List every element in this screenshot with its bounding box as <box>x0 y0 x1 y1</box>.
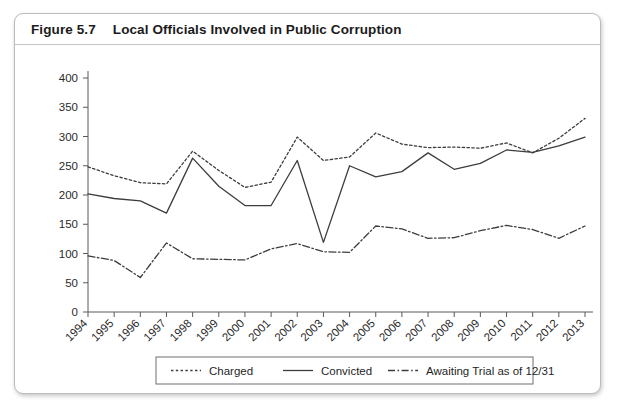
series-line-awaiting <box>88 225 585 277</box>
figure-title: Local Officials Involved in Public Corru… <box>113 22 402 37</box>
x-axis-tick-label: 2005 <box>351 317 378 344</box>
series-line-charged <box>88 118 585 187</box>
x-axis-tick-label: 2002 <box>272 317 299 344</box>
x-axis-tick-label: 1995 <box>89 317 116 344</box>
x-axis-tick-label: 1998 <box>167 317 194 344</box>
y-axis-tick-label: 250 <box>59 160 78 172</box>
y-axis-tick-label: 200 <box>59 189 78 201</box>
legend-label-3: Awaiting Trial as of 12/31 <box>426 365 554 377</box>
y-axis-tick-label: 50 <box>65 277 78 289</box>
x-axis-tick-label: 1997 <box>141 317 168 344</box>
y-axis-tick-label: 150 <box>59 218 78 230</box>
x-axis-tick-label: 2007 <box>403 317 430 344</box>
figure-card: Figure 5.7 Local Officials Involved in P… <box>14 13 601 394</box>
figure-number: Figure 5.7 <box>31 22 96 37</box>
x-axis-tick-label: 2012 <box>534 317 561 344</box>
chart-series <box>88 118 585 277</box>
x-axis: 1994199519961997199819992000200120022003… <box>63 312 593 344</box>
legend-label-2: Convicted <box>321 365 372 377</box>
x-axis-tick-label: 2010 <box>481 317 508 344</box>
legend-label-1: Charged <box>209 365 253 377</box>
chart-plot-area: 050100150200250300350400 199419951996199… <box>15 45 600 393</box>
line-chart: 050100150200250300350400 199419951996199… <box>15 45 600 393</box>
x-axis-tick-label: 2003 <box>298 317 325 344</box>
chart-legend: ChargedConvictedAwaiting Trial as of 12/… <box>156 357 554 384</box>
x-axis-tick-label: 1996 <box>115 317 142 344</box>
x-axis-tick-label: 2006 <box>377 317 404 344</box>
figure-header: Figure 5.7 Local Officials Involved in P… <box>15 14 600 45</box>
x-axis-tick-label: 2009 <box>455 317 482 344</box>
x-axis-tick-label: 1994 <box>63 317 90 344</box>
y-axis: 050100150200250300350400 <box>59 71 88 318</box>
y-axis-tick-label: 100 <box>59 248 78 260</box>
x-axis-tick-label: 1999 <box>194 317 221 344</box>
x-axis-tick-label: 2011 <box>508 317 534 343</box>
y-axis-tick-label: 0 <box>72 306 78 318</box>
y-axis-tick-label: 350 <box>59 101 78 113</box>
x-axis-tick-label: 2000 <box>220 317 247 344</box>
y-axis-tick-label: 400 <box>59 72 78 84</box>
x-axis-tick-label: 2008 <box>429 317 456 344</box>
x-axis-tick-label: 2013 <box>560 317 587 344</box>
x-axis-tick-label: 2004 <box>324 317 351 344</box>
y-axis-tick-label: 300 <box>59 131 78 143</box>
x-axis-tick-label: 2001 <box>246 317 273 344</box>
